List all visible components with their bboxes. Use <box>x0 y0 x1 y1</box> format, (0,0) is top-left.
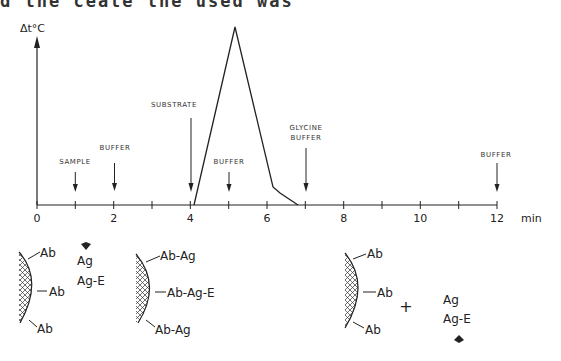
event-buffer-1: BUFFER <box>100 144 131 191</box>
down-arrow-icon <box>189 183 194 192</box>
svg-text:BUFFER: BUFFER <box>481 151 512 159</box>
response-curve <box>194 27 298 205</box>
x-tick-10: 10 <box>413 212 427 225</box>
down-arrow-icon <box>73 184 78 192</box>
scheme-complex: Ab-Ag Ab-Ag-E Ab-Ag <box>136 249 215 337</box>
svg-text:Ab-Ag-E: Ab-Ag-E <box>167 286 215 300</box>
x-tick-4: 4 <box>187 212 194 225</box>
svg-text:Ag-E: Ag-E <box>77 274 105 288</box>
svg-text:BUFFER: BUFFER <box>100 144 131 152</box>
svg-text:Ab: Ab <box>365 323 381 337</box>
svg-text:GLYCINE: GLYCINE <box>289 124 322 132</box>
down-arrow-icon <box>304 183 309 192</box>
enzyme-marker-icon <box>81 242 91 250</box>
scheme-binding: Ab Ab Ab Ag Ag-E <box>19 242 105 336</box>
svg-text:SAMPLE: SAMPLE <box>59 158 91 166</box>
x-axis: 0 2 4 6 8 10 12 min <box>34 201 542 225</box>
svg-text:Ab: Ab <box>37 322 53 336</box>
svg-text:Ab: Ab <box>367 247 383 261</box>
down-arrow-icon <box>495 184 500 192</box>
svg-text:Ab: Ab <box>49 285 65 299</box>
svg-text:Ag-E: Ag-E <box>443 312 471 326</box>
svg-text:Ab: Ab <box>377 286 393 300</box>
event-substrate: SUBSTRATE <box>151 101 197 192</box>
y-axis-label: Δt°C <box>20 22 45 35</box>
svg-text:BUFFER: BUFFER <box>291 134 322 142</box>
event-sample: SAMPLE <box>59 158 91 192</box>
x-tick-8: 8 <box>340 212 347 225</box>
svg-text:Ag: Ag <box>443 293 459 307</box>
svg-text:Ab-Ag: Ab-Ag <box>160 249 196 263</box>
svg-text:Ab-Ag: Ab-Ag <box>155 323 191 337</box>
x-tick-2: 2 <box>110 212 117 225</box>
y-axis: Δt°C <box>20 22 45 205</box>
x-tick-12: 12 <box>490 212 504 225</box>
down-arrow-icon <box>112 183 117 191</box>
x-tick-0: 0 <box>34 212 41 225</box>
svg-text:Ag: Ag <box>77 254 93 268</box>
event-glycine-buffer: GLYCINE BUFFER <box>289 124 322 192</box>
x-axis-unit: min <box>521 212 542 225</box>
event-buffer-3: BUFFER <box>481 151 512 192</box>
y-axis-arrow-icon <box>34 36 40 48</box>
down-arrow-icon <box>227 184 232 192</box>
svg-text:BUFFER: BUFFER <box>214 158 245 166</box>
enzyme-marker-icon <box>454 335 464 343</box>
scheme-regeneration: Ab Ab Ab + Ag Ag-E <box>345 247 471 343</box>
svg-text:Ab: Ab <box>40 246 56 260</box>
x-tick-6: 6 <box>264 212 271 225</box>
svg-text:SUBSTRATE: SUBSTRATE <box>151 101 197 109</box>
figure: Δt°C 0 2 4 6 8 10 12 min SAMPLE <box>0 0 561 361</box>
event-buffer-2: BUFFER <box>214 158 245 192</box>
plus-sign: + <box>399 297 412 316</box>
